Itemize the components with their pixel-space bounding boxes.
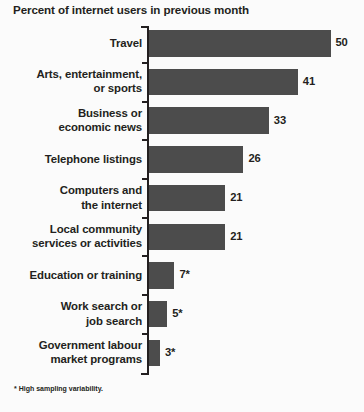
category-label: Computers and the internet	[60, 183, 142, 211]
bar	[149, 30, 331, 57]
axis-tick	[142, 139, 149, 141]
bar-value-label: 33	[274, 114, 286, 126]
bar	[149, 146, 243, 173]
bar	[149, 224, 225, 251]
bar	[149, 340, 160, 367]
bar-value-label: 5*	[172, 307, 182, 319]
chart-title: Percent of internet users in previous mo…	[13, 3, 249, 16]
axis-tick	[142, 294, 149, 296]
bar	[149, 107, 269, 134]
bar	[149, 301, 167, 328]
category-label: Government labour market programs	[39, 338, 142, 366]
plot-area: 50Travel41Arts, entertainment, or sports…	[0, 26, 364, 376]
bar	[149, 69, 298, 96]
bar	[149, 262, 174, 289]
axis-tick	[142, 217, 149, 219]
category-label: Local community services or activities	[32, 222, 142, 250]
axis-cap-bottom	[141, 373, 149, 375]
axis-tick	[142, 62, 149, 64]
bar-chart: Percent of internet users in previous mo…	[0, 0, 364, 412]
bar-value-label: 21	[230, 191, 242, 203]
bar-value-label: 21	[230, 230, 242, 242]
category-label: Travel	[110, 36, 142, 50]
bar-value-label: 26	[248, 152, 260, 164]
bar-value-label: 3*	[165, 346, 175, 358]
category-label: Work search or job search	[61, 299, 142, 327]
bar-value-label: 41	[303, 75, 315, 87]
category-label: Arts, entertainment, or sports	[36, 67, 142, 95]
category-label: Telephone listings	[45, 152, 142, 166]
axis-tick	[142, 255, 149, 257]
axis-cap-top	[141, 26, 149, 28]
bar-value-label: 7*	[179, 268, 189, 280]
category-label: Business or economic news	[58, 106, 142, 134]
footnote: * High sampling variability.	[14, 385, 103, 392]
axis-tick	[142, 178, 149, 180]
bar-value-label: 50	[336, 36, 348, 48]
category-label: Education or training	[30, 268, 142, 282]
bar	[149, 185, 225, 212]
axis-tick	[142, 101, 149, 103]
axis-tick	[142, 333, 149, 335]
